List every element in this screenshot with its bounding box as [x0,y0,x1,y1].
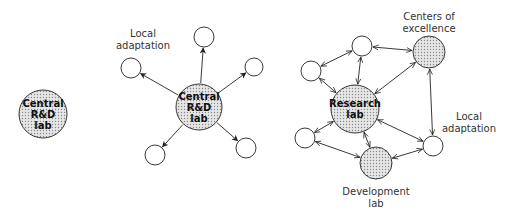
label-line: adaptation [116,40,170,52]
node-c-centers [413,36,445,68]
node-c-left-top [301,61,321,81]
node-c-left-bottom [295,128,315,148]
bidirectional-arrow-c_left_bottom-to-c_dev [315,142,360,158]
node-b-left-bottom [145,145,165,165]
node-label-line: Central [22,98,63,109]
node-b-right-top [245,58,263,76]
node-label-line: Research [329,98,381,109]
label-c-label-dev: Developmentlab [342,186,409,210]
node-label-line: Central [178,91,219,102]
node-label-line: lab [178,113,219,124]
label-line: adaptation [442,123,496,135]
bidirectional-arrow-c_centers-to-c_local [430,69,433,135]
label-line: Local [442,111,496,123]
bidirectional-arrow-c_left_top-to-c_research [319,78,336,92]
label-line: Development [342,186,409,198]
bidirectional-arrow-c_research-to-c_dev [364,132,370,147]
label-c-label-local: Localadaptation [442,111,496,135]
bidirectional-arrow-c_research-to-c_centers [375,62,416,93]
arrow-b_central-to-b_right_top [218,73,246,93]
nodes-layer [19,27,445,179]
label-line: excellence [402,23,455,35]
node-b-right-bottom [236,138,256,158]
node-label-line: R&D [22,109,63,120]
bidirectional-arrow-c_research-to-c_local [378,120,423,142]
node-label-line: lab [329,109,381,120]
node-c-dev [360,147,392,179]
label-b-label-local: Localadaptation [116,28,170,52]
bidirectional-arrow-c_top-to-c_research [358,57,361,84]
node-label-c-research: Researchlab [329,98,381,120]
node-b-top [194,27,214,47]
arrow-b_central-to-b_right_bottom [217,123,238,141]
bidirectional-arrow-c_dev-to-c_local [392,149,422,158]
node-label-a-central: CentralR&Dlab [22,98,63,131]
node-b-left [121,58,141,78]
arrow-b_central-to-b_left_bottom [162,125,182,147]
bidirectional-arrow-c_left_bottom-to-c_research [315,122,334,133]
label-line: Centers of [402,11,455,23]
label-c-label-centers: Centers ofexcellence [402,11,455,35]
node-label-line: R&D [178,102,219,113]
node-c-local [423,136,443,156]
bidirectional-arrow-c_top-to-c_left_top [321,51,352,66]
bidirectional-arrow-c_top-to-c_centers [373,47,412,51]
arrow-b_central-to-b_left [141,73,179,95]
node-c-top [352,36,372,56]
arrow-b_central-to-b_top [201,48,204,83]
node-label-b-central: CentralR&Dlab [178,91,219,124]
label-line: lab [342,198,409,210]
label-line: Local [116,28,170,40]
node-label-line: lab [22,120,63,131]
